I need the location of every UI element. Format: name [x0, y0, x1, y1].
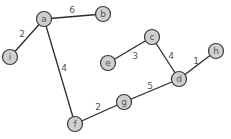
- node-f: f: [68, 117, 83, 132]
- node-a-label: a: [41, 14, 47, 24]
- edge-weight-c-d: 4: [168, 51, 174, 61]
- node-g-label: g: [121, 97, 127, 107]
- edge-weight-a-b: 6: [69, 5, 75, 15]
- node-h-label: h: [213, 46, 219, 56]
- nodes-layer: abicehdgf: [3, 7, 224, 132]
- edge-weight-c-e: 3: [132, 51, 138, 61]
- node-a: a: [37, 12, 52, 27]
- node-b-label: b: [100, 9, 106, 19]
- node-c: c: [145, 30, 160, 45]
- edge-weight-d-h: 1: [193, 56, 199, 66]
- graph-diagram: 62434152 abicehdgf: [0, 0, 231, 139]
- node-h: h: [209, 44, 224, 59]
- node-e-label: e: [105, 58, 111, 68]
- node-i-label: i: [9, 52, 12, 62]
- node-e: e: [101, 56, 116, 71]
- node-g: g: [117, 95, 132, 110]
- edge-weight-f-g: 2: [95, 102, 101, 112]
- edge-weight-g-d: 5: [147, 81, 153, 91]
- edge-weight-a-i: 2: [19, 29, 25, 39]
- node-b: b: [96, 7, 111, 22]
- edge-a-f: [44, 19, 75, 124]
- node-c-label: c: [150, 32, 155, 42]
- node-i: i: [3, 50, 18, 65]
- edge-weight-a-f: 4: [61, 63, 67, 73]
- node-d-label: d: [176, 74, 182, 84]
- node-d: d: [172, 72, 187, 87]
